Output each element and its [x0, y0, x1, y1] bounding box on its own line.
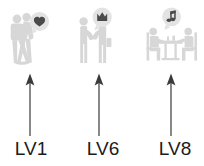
level-group-lv8: LV8 — [139, 0, 204, 166]
speech-bubble-music-note — [162, 7, 181, 30]
arrow-up-lv6 — [69, 72, 137, 138]
pictogram-two-people-dining — [139, 4, 204, 72]
level-label-lv1: LV1 — [0, 138, 68, 160]
diagram-canvas: LV1 — [0, 0, 204, 166]
pictogram-couple-dancing — [0, 4, 68, 72]
arrow-up-lv8 — [139, 72, 204, 138]
level-group-lv6: LV6 — [69, 0, 137, 166]
level-label-lv8: LV8 — [139, 138, 204, 160]
level-label-lv6: LV6 — [69, 138, 137, 160]
arrow-up-lv1 — [0, 72, 68, 138]
level-group-lv1: LV1 — [0, 0, 68, 166]
two-people-dining-silhouette — [147, 28, 197, 61]
speech-bubble-heart — [30, 12, 49, 35]
pictogram-two-people-facing — [69, 4, 137, 72]
